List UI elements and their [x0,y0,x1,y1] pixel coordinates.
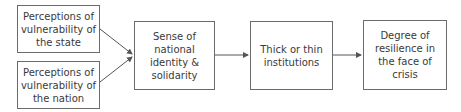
edges-layer [0,0,461,112]
arrow-nation-to-identity [100,57,132,82]
arrow-state-to-identity [100,29,132,54]
